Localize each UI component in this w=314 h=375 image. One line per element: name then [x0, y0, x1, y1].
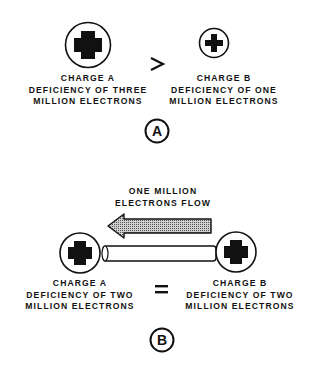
caption-line: CHARGE A [14, 278, 146, 290]
charge-a-icon [60, 233, 100, 273]
caption-line: DEFICIENCY OF THREE [18, 85, 158, 97]
panel-a-charge-b-caption: CHARGE B DEFICIENCY OF ONE MILLION ELECT… [160, 73, 288, 108]
caption-line: ELECTRONS FLOW [108, 198, 218, 210]
equals-symbol [155, 285, 168, 293]
charge-a-large-icon [66, 23, 111, 68]
caption-line: MILLION ELECTRONS [174, 301, 306, 313]
panel-b-charge-a-caption: CHARGE A DEFICIENCY OF TWO MILLION ELECT… [14, 278, 146, 313]
caption-line: CHARGE B [160, 73, 288, 85]
charge-b-small-icon [200, 29, 229, 58]
caption-line: DEFICIENCY OF TWO [174, 290, 306, 302]
electron-flow-caption: ONE MILLION ELECTRONS FLOW [108, 186, 218, 209]
caption-line: CHARGE B [174, 278, 306, 290]
panel-a-label: A [150, 123, 164, 139]
panel-b-charge-b-caption: CHARGE B DEFICIENCY OF TWO MILLION ELECT… [174, 278, 306, 313]
caption-line: DEFICIENCY OF ONE [160, 85, 288, 97]
electron-flow-arrow-icon [108, 214, 211, 238]
panel-a-charge-a-caption: CHARGE A DEFICIENCY OF THREE MILLION ELE… [18, 73, 158, 108]
caption-line: MILLION ELECTRONS [14, 301, 146, 313]
greater-than-symbol [151, 58, 163, 70]
caption-line: MILLION ELECTRONS [18, 96, 158, 108]
charge-b-icon [216, 232, 256, 272]
caption-line: ONE MILLION [108, 186, 218, 198]
caption-line: CHARGE A [18, 73, 158, 85]
caption-line: DEFICIENCY OF TWO [14, 290, 146, 302]
conductor-rod-icon [102, 246, 216, 261]
caption-line: MILLION ELECTRONS [160, 96, 288, 108]
panel-b-label: B [155, 332, 169, 348]
